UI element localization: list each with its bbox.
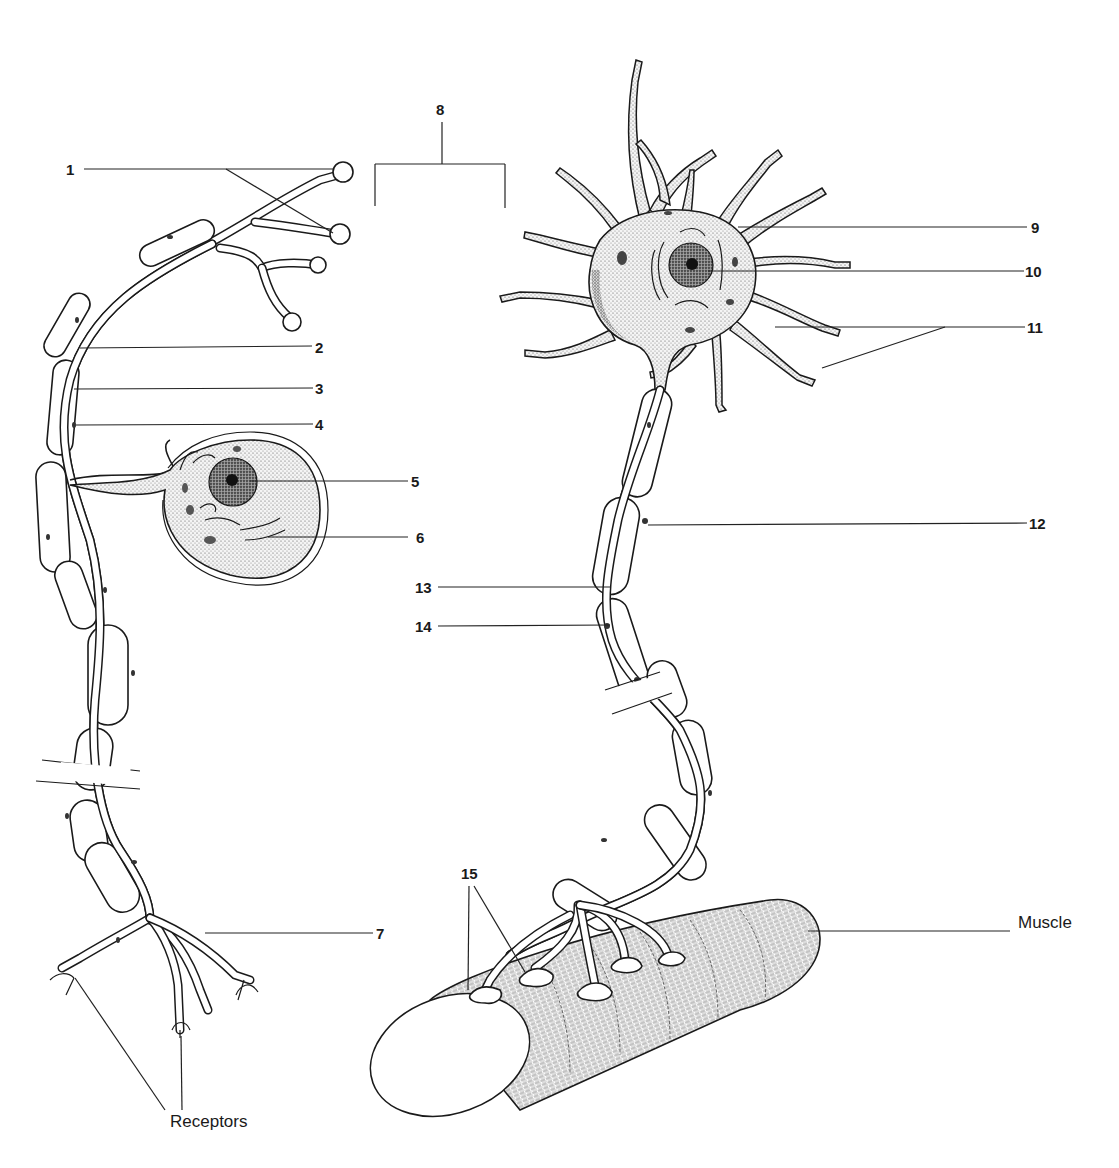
myelinated-axon-motor bbox=[510, 386, 714, 955]
label-4: 4 bbox=[315, 417, 323, 432]
neuron-diagram bbox=[0, 0, 1119, 1168]
sensory-neuron bbox=[35, 162, 353, 1038]
label-14: 14 bbox=[415, 619, 432, 634]
motor-neuron bbox=[353, 60, 850, 1138]
label-muscle: Muscle bbox=[1018, 914, 1072, 931]
label-8: 8 bbox=[436, 102, 444, 117]
label-3: 3 bbox=[315, 381, 323, 396]
myelinated-axon-upper bbox=[35, 216, 218, 920]
label-13: 13 bbox=[415, 580, 432, 595]
label-10: 10 bbox=[1025, 264, 1042, 279]
label-7: 7 bbox=[376, 926, 384, 941]
label-12: 12 bbox=[1029, 516, 1046, 531]
label-receptors: Receptors bbox=[170, 1113, 247, 1130]
label-9: 9 bbox=[1031, 220, 1039, 235]
label-15: 15 bbox=[461, 866, 478, 881]
axon-terminals bbox=[210, 162, 353, 331]
label-6: 6 bbox=[416, 530, 424, 545]
label-2: 2 bbox=[315, 340, 323, 355]
receptor-endings bbox=[50, 918, 258, 1038]
sensory-cell-body bbox=[70, 432, 328, 585]
label-5: 5 bbox=[411, 474, 419, 489]
label-11: 11 bbox=[1027, 320, 1043, 335]
label-1: 1 bbox=[66, 162, 74, 177]
